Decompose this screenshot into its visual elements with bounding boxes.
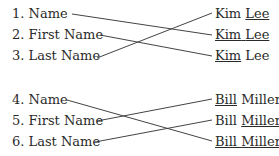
connector-last-name-to-last bbox=[97, 13, 212, 58]
field-label: First Name bbox=[29, 27, 104, 42]
right-value-1: Kim Lee bbox=[215, 6, 269, 22]
field-label: Last Name bbox=[29, 134, 101, 149]
first-name: Kim bbox=[215, 6, 241, 21]
item-number: 1. bbox=[12, 6, 24, 21]
field-label: Last Name bbox=[29, 48, 101, 63]
item-number: 2. bbox=[12, 27, 24, 42]
right-value-3: Kim Lee bbox=[215, 48, 269, 64]
left-label-3: 3. Last Name bbox=[12, 48, 100, 64]
item-number: 5. bbox=[12, 113, 24, 128]
connector-first-name-to-first bbox=[97, 99, 212, 121]
field-label: Name bbox=[29, 6, 68, 21]
connector-lines bbox=[0, 0, 279, 156]
connector-first-name-to-first bbox=[100, 35, 212, 56]
full-name: Bill Miller bbox=[215, 134, 279, 149]
item-number: 4. bbox=[12, 92, 24, 107]
item-number: 6. bbox=[12, 134, 24, 149]
left-label-2: 2. First Name bbox=[12, 27, 103, 43]
left-label-5: 5. First Name bbox=[12, 113, 103, 129]
first-name: Kim bbox=[215, 48, 241, 63]
last-name: Lee bbox=[245, 6, 269, 21]
right-value-2: Kim Lee bbox=[215, 27, 269, 43]
field-label: First Name bbox=[29, 113, 104, 128]
left-label-6: 6. Last Name bbox=[12, 134, 100, 150]
item-number: 3. bbox=[12, 48, 24, 63]
last-name: Miller bbox=[241, 113, 279, 128]
connector-last-name-to-last bbox=[95, 120, 212, 142]
first-name: Bill bbox=[215, 92, 237, 107]
last-name: Lee bbox=[245, 48, 269, 63]
first-name: Bill bbox=[215, 113, 237, 128]
right-value-4: Bill Miller bbox=[215, 92, 279, 108]
right-value-6: Bill Miller bbox=[215, 134, 279, 150]
left-label-1: 1. Name bbox=[12, 6, 68, 22]
right-value-5: Bill Miller bbox=[215, 113, 279, 129]
full-name: Kim Lee bbox=[215, 27, 269, 42]
last-name: Miller bbox=[241, 92, 279, 107]
left-label-4: 4. Name bbox=[12, 92, 68, 108]
field-label: Name bbox=[29, 92, 68, 107]
